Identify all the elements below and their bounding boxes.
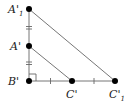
label-a-prime: A' xyxy=(9,40,21,53)
label-b-prime: B' xyxy=(7,75,19,88)
label-c1-prime: C'1 xyxy=(109,88,125,102)
point-c1-prime xyxy=(112,78,118,84)
label-c-prime: C' xyxy=(66,88,77,101)
point-c-prime xyxy=(69,78,75,84)
segment-a1-c1 xyxy=(29,9,115,81)
segment-a-c xyxy=(29,46,72,81)
point-b-prime xyxy=(26,78,32,84)
point-a-prime xyxy=(26,43,32,49)
point-a1-prime xyxy=(26,6,32,12)
triangle-diagram: A'1 A' B' C' C'1 xyxy=(0,0,130,102)
label-a1-prime: A'1 xyxy=(7,3,23,18)
